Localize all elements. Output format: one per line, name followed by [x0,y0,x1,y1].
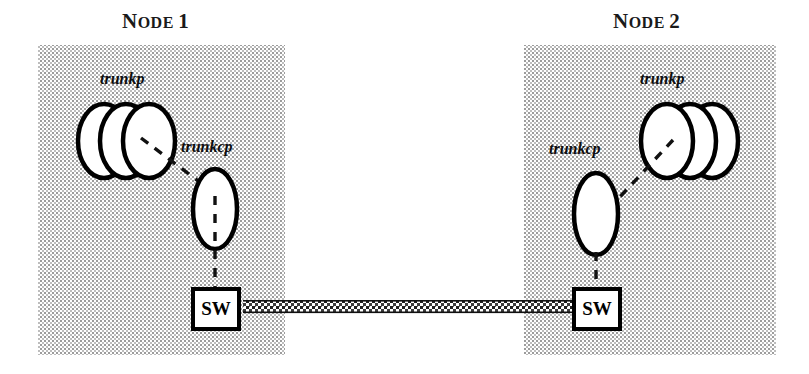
node-2-title: NODE 2 [613,9,680,34]
inter-node-link-top-edge [243,300,576,302]
inter-node-link [243,300,576,313]
node-1-title-smallcaps: ODE [138,14,174,31]
node-1-title: NODE 1 [122,9,189,34]
node-2-trunkcp-label: trunkcp [549,140,601,158]
node-2-trunkp-group [641,104,738,178]
node-2-title-number: 2 [669,9,680,33]
node-2-title-smallcaps: ODE [629,14,665,31]
node-2-title-initial: N [613,9,629,33]
node-2-trunkcp-ellipse [574,173,618,255]
diagram-canvas [0,0,809,374]
node-2-switch-label: SW [574,298,620,320]
node-1-trunkp-label: trunkp [100,70,144,88]
node-1-title-number: 1 [178,9,189,33]
network-topology-diagram: NODE 1 NODE 2 trunkp trunkcp trunkp trun… [0,0,809,374]
node-1-title-initial: N [122,9,138,33]
node-1-trunkp-group [78,104,175,178]
node-2-trunkcp-group [574,173,618,255]
node-1-trunkp-ellipse-3 [123,104,175,178]
inter-node-link-bottom-edge [243,312,576,314]
inter-node-link-band [243,301,576,313]
node-2-trunkp-label: trunkp [640,70,684,88]
node-1-trunkcp-label: trunkcp [181,138,233,156]
node-1-switch-label: SW [193,298,239,320]
